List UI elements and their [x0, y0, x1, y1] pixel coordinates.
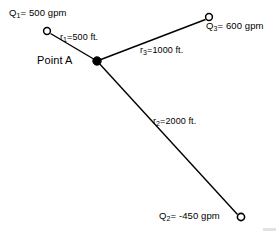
label-r1: r1=500 ft. [60, 33, 98, 42]
label-q1-subscript: 1 [17, 12, 21, 19]
label-q2-symbol: Q [159, 210, 167, 221]
label-r3-value: =1000 ft. [147, 45, 183, 55]
label-q3: Q3= 600 gpm [206, 21, 264, 31]
label-q3-symbol: Q [206, 20, 214, 31]
label-point-a: Point A [37, 55, 73, 66]
label-q1-value: = 500 gpm [21, 7, 67, 18]
pipe-network-canvas [0, 0, 279, 238]
label-r1-subscript: 1 [63, 36, 67, 43]
node-circle-point-a[interactable] [93, 57, 101, 65]
label-r2-value: =2000 ft. [160, 116, 196, 126]
label-q3-subscript: 3 [214, 25, 218, 32]
pipe-line-r2 [97, 61, 238, 215]
label-r3-subscript: 3 [143, 49, 147, 56]
pipe-network-diagram: Q1= 500 gpm r1=500 ft. Point A r3=1000 f… [0, 0, 279, 238]
label-q2-value: = -450 gpm [171, 210, 220, 221]
label-r1-value: =500 ft. [67, 32, 98, 42]
label-q1-symbol: Q [9, 7, 17, 18]
label-q3-value: = 600 gpm [218, 20, 264, 31]
label-r3: r3=1000 ft. [140, 46, 183, 55]
node-circle-q2[interactable] [237, 213, 244, 220]
label-r2-subscript: 2 [156, 120, 160, 127]
node-circle-q1[interactable] [44, 28, 51, 35]
label-q2-subscript: 2 [167, 215, 171, 222]
label-q1: Q1= 500 gpm [9, 8, 67, 18]
label-q2: Q2= -450 gpm [159, 211, 220, 221]
scan-artifact [263, 228, 276, 231]
label-r2: r2=2000 ft. [153, 117, 196, 126]
